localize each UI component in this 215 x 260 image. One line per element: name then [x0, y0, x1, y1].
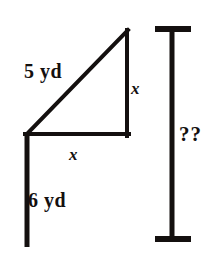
label-horizontal-leg-x: x [69, 146, 78, 163]
geometry-figure: 5 yd 6 yd x x ?? [0, 0, 215, 260]
label-unknown-total-height: ?? [179, 124, 202, 145]
label-pole-length: 6 yd [28, 190, 66, 210]
label-vertical-leg-x: x [131, 80, 140, 97]
triangle-hypotenuse [27, 30, 128, 134]
label-hypotenuse-length: 5 yd [24, 61, 62, 81]
